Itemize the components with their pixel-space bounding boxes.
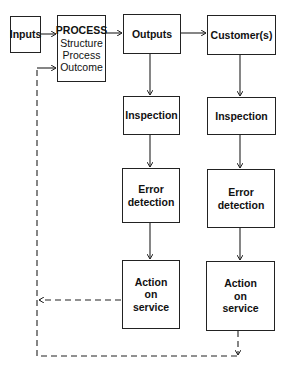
customers-label: Customer(s) <box>211 29 273 42</box>
inspection-customers-box: Inspection <box>207 97 276 135</box>
process-label: PROCESS <box>56 24 107 37</box>
inspection-label: Inspection <box>215 110 268 123</box>
action-label-line1: Action <box>135 276 168 289</box>
error-label-line1: Error <box>138 183 164 196</box>
inputs-box: Inputs <box>10 16 41 53</box>
error-detection-customers-box: Error detection <box>207 169 275 228</box>
error-detection-outputs-box: Error detection <box>122 168 180 223</box>
customers-box: Customer(s) <box>207 15 276 55</box>
error-label-line2: detection <box>218 199 265 212</box>
process-item-process: Process <box>63 49 101 61</box>
process-item-structure: Structure <box>60 37 103 49</box>
outputs-box: Outputs <box>123 14 181 54</box>
action-label-line2: on <box>234 290 247 303</box>
error-label-line2: detection <box>128 196 175 209</box>
process-box: PROCESS Structure Process Outcome <box>57 15 106 82</box>
action-label-line3: service <box>222 302 258 315</box>
inspection-label: Inspection <box>125 109 178 122</box>
process-item-outcome: Outcome <box>60 61 103 73</box>
action-customers-box: Action on service <box>206 261 275 331</box>
outputs-label: Outputs <box>132 28 172 41</box>
inputs-label: Inputs <box>10 28 42 41</box>
action-label-line2: on <box>145 288 158 301</box>
inspection-outputs-box: Inspection <box>123 96 180 135</box>
action-label-line1: Action <box>224 277 257 290</box>
action-outputs-box: Action on service <box>122 260 180 329</box>
error-label-line1: Error <box>228 186 254 199</box>
action-label-line3: service <box>133 301 169 314</box>
